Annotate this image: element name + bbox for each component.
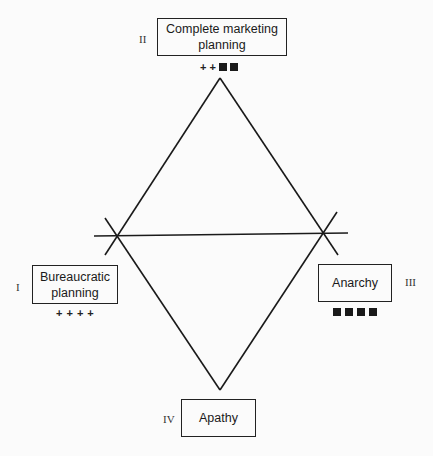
- horizontal-axis: [94, 233, 348, 236]
- markers-iii: [333, 308, 377, 316]
- square-marker: [357, 308, 365, 316]
- node-label-line: Complete marketing: [166, 21, 278, 37]
- plus-marker: +: [209, 61, 215, 73]
- numeral-iv: IV: [163, 413, 175, 425]
- plus-marker: +: [87, 307, 93, 319]
- plus-marker: +: [66, 307, 72, 319]
- edge-bottom-left: [105, 218, 220, 390]
- square-marker: [333, 308, 341, 316]
- markers-ii: ++: [200, 61, 238, 73]
- plus-marker: +: [200, 61, 206, 73]
- node-label-line: Bureaucratic: [40, 269, 110, 285]
- edge-top-left: [105, 78, 220, 255]
- square-marker: [219, 63, 227, 71]
- square-marker: [369, 308, 377, 316]
- node-complete-marketing-planning: Complete marketing planning: [157, 18, 287, 56]
- square-marker: [230, 63, 238, 71]
- numeral-i: I: [16, 281, 20, 293]
- plus-marker: +: [77, 307, 83, 319]
- square-marker: [345, 308, 353, 316]
- node-apathy: Apathy: [181, 399, 256, 437]
- node-label-line: planning: [198, 37, 245, 53]
- node-label-line: Anarchy: [332, 275, 378, 291]
- numeral-iii: III: [405, 276, 416, 288]
- node-label-line: Apathy: [199, 410, 238, 426]
- markers-i: ++++: [56, 307, 94, 319]
- plus-marker: +: [56, 307, 62, 319]
- edge-top-right: [220, 78, 338, 255]
- node-label-line: planning: [51, 285, 98, 301]
- numeral-ii: II: [139, 33, 146, 45]
- node-anarchy: Anarchy: [318, 264, 392, 302]
- node-bureaucratic-planning: Bureaucratic planning: [32, 265, 118, 304]
